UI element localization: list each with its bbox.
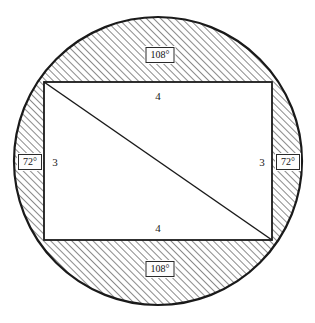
right-side-length-label: 3 [259, 157, 265, 168]
left-side-length-label: 3 [52, 157, 58, 168]
left-arc-angle-label: 72° [18, 154, 42, 170]
top-arc-angle-label: 108° [146, 47, 175, 63]
top-side-length-label: 4 [155, 91, 161, 102]
geometry-figure: 4433108°108°72°72° [0, 0, 315, 323]
bottom-side-length-label: 4 [155, 223, 161, 234]
right-arc-angle-label: 72° [276, 154, 300, 170]
bottom-arc-angle-label: 108° [146, 261, 175, 277]
